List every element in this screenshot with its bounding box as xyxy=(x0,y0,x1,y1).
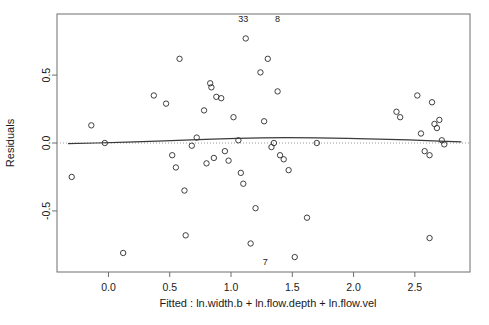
y-tick-label: -0.5 xyxy=(40,202,52,220)
x-tick-label: 2.5 xyxy=(408,281,423,293)
x-axis-label: Fitted : ln.width.b + ln.flow.depth + ln… xyxy=(159,297,376,309)
x-tick-label: 1.0 xyxy=(224,281,239,293)
plot-canvas: 3387 0.00.51.01.52.02.5 -0.50.00.5 Fitte… xyxy=(0,0,489,325)
x-tick-label: 1.5 xyxy=(285,281,300,293)
x-tick-label: 2.0 xyxy=(346,281,361,293)
residuals-vs-fitted-plot: 3387 0.00.51.01.52.02.5 -0.50.00.5 Fitte… xyxy=(0,0,489,325)
x-tick-label: 0.0 xyxy=(101,281,116,293)
y-tick-label: 0.0 xyxy=(40,136,52,151)
outlier-label: 33 xyxy=(238,14,248,24)
outlier-label: 7 xyxy=(263,257,268,267)
outlier-label: 8 xyxy=(275,14,280,24)
y-tick-label: 0.5 xyxy=(40,68,52,83)
plot-background xyxy=(0,0,489,325)
x-tick-label: 0.5 xyxy=(162,281,177,293)
y-axis-label: Residuals xyxy=(4,118,16,167)
